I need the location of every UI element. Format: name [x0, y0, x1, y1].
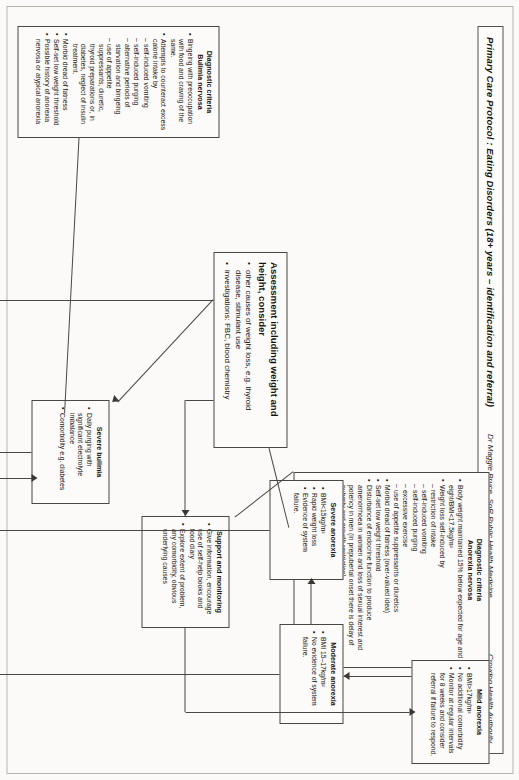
list-item: self-induced purging [409, 479, 418, 661]
assessment-heading: Assessment including weight and height, … [255, 262, 279, 438]
connector-specialist-to-severe-bulimia [0, 478, 31, 479]
connector-severe-bulimia-to-specialist [0, 452, 31, 453]
bulimia-criteria-box: Diagnostic criteria Bulimia nervosa Bing… [17, 26, 219, 138]
severe-anorexia-heading: Severe anorexia [328, 487, 337, 573]
list-item: Explore extent of problem, any comorbidi… [159, 523, 185, 621]
connector-support-right-to-mild-h [184, 628, 185, 712]
list-item: alternative periods of starvation and bi… [113, 33, 130, 131]
list-item: excessive exercise [400, 479, 409, 661]
anorexia-criteria-heading-line2: Anorexia nervosa [465, 540, 474, 600]
list-item: Morbid dread of fatness [60, 33, 69, 131]
severe-bulimia-list: Daily purging with significant electroly… [57, 407, 92, 497]
list-item: Self-set low weight threshold [372, 479, 381, 661]
assessment-list: other causes of weight loss, e.g. thyroi… [220, 262, 252, 438]
severe-bulimia-heading: Severe bulimia [94, 407, 103, 497]
list-item: No evidence of system failure. [299, 631, 316, 717]
connector-mild-to-moderate-anorexia [343, 676, 411, 677]
list-item: investigations: FBC, blood chemistry [220, 262, 230, 438]
list-item: Bingeing with preoccupation with food an… [167, 33, 193, 131]
connector-assessment-to-support-right [185, 400, 213, 401]
connector-moderate-to-severe-anorexia [310, 584, 311, 624]
arrow-head [409, 708, 415, 716]
list-item: Rapid weight loss [308, 487, 317, 573]
severe-anorexia-list: BMI<15kg/m² Rapid weight loss Evidence o… [290, 487, 326, 573]
list-item: Give information, encourage use of self-… [186, 523, 212, 621]
list-item: BMI>17kg/m² [463, 667, 472, 757]
severe-bulimia-box: Severe bulimia Daily purging with signif… [31, 400, 109, 504]
list-item: Daily purging with significant electroly… [66, 407, 92, 497]
mild-anorexia-list: BMI>17kg/m² No additional comorbidity Mo… [428, 667, 472, 757]
mild-anorexia-box: Mild anorexia BMI>17kg/m² No additional … [411, 660, 489, 764]
list-item: Morbid dread of fatness (over-valued ide… [381, 479, 390, 661]
list-item: Evidence of system failure. [290, 487, 307, 573]
connector-severe-anorexia-to-specialist-v [0, 530, 269, 531]
arrow-head [31, 474, 37, 482]
arrow-head [181, 510, 189, 516]
list-item: self-induced purging [131, 33, 140, 131]
list-item: self-induced vomiting [140, 33, 149, 131]
anorexia-criteria-heading-line1: Diagnostic criteria [474, 539, 483, 602]
moderate-anorexia-list: BMI 15–17kg/m² No evidence of system fai… [299, 631, 326, 717]
list-item: Self-set low weight threshold [51, 33, 60, 131]
anorexia-criteria-heading: Diagnostic criteria Anorexia nervosa [465, 479, 483, 661]
moderate-anorexia-box: Moderate anorexia BMI 15–17kg/m² No evid… [279, 624, 343, 724]
bulimia-criteria-heading-line1: Diagnostic criteria [204, 51, 213, 114]
connector-assessment-to-support-left [0, 300, 213, 301]
protocol-flowchart: Primary Care Protocol : Eating Disorders… [0, 0, 519, 780]
support-monitoring-list: Give information, encourage use of self-… [159, 523, 212, 621]
list-item: Body weight maintained 15% below expecte… [446, 479, 463, 661]
moderate-anorexia-heading: Moderate anorexia [328, 631, 337, 717]
list-item: Attempts to counteract excess calorie in… [149, 33, 166, 131]
list-item: Comorbidity e.g. diabetes [57, 407, 66, 497]
anorexia-criteria-list: Body weight maintained 15% below expecte… [337, 479, 463, 661]
arrow-head [307, 578, 315, 584]
list-item: BMI<15kg/m² [317, 487, 326, 573]
list-item: Possible history of anorexia nervosa or … [33, 33, 50, 131]
bulimia-criteria-list: Bingeing with preoccupation with food an… [33, 33, 193, 131]
list-item: use of appetite suppressants, diuretic, … [69, 33, 112, 131]
connector-moderate-anorexia-to-specialist-v [0, 674, 279, 675]
list-item: other causes of weight loss, e.g. thyroi… [231, 262, 252, 438]
screenshot-page: Primary Care Protocol : Eating Disorders… [0, 0, 519, 780]
list-item: No additional comorbidity [454, 667, 463, 757]
assessment-box: Assessment including weight and height, … [213, 252, 287, 448]
list-item: Monitor at regular intervals for 8 weeks… [428, 667, 454, 757]
bulimia-criteria-heading: Diagnostic criteria Bulimia nervosa [195, 33, 213, 131]
list-item: self-induced vomiting [418, 479, 427, 661]
arrow-head [343, 672, 349, 680]
list-item: restriction of intake [427, 479, 436, 661]
bulimia-criteria-heading-line2: Bulimia nervosa [195, 54, 204, 110]
mild-anorexia-heading: Mild anorexia [474, 667, 483, 757]
list-item: Weight loss self-induced by [436, 479, 445, 661]
support-monitoring-heading: Support and monitoring [214, 523, 223, 621]
list-item: BMI 15–17kg/m² [317, 631, 326, 717]
page-title: Primary Care Protocol : Eating Disorders… [485, 37, 496, 407]
connector-assessment-to-support-right-h [184, 400, 185, 516]
list-item: use of appetite suppressants or diuretic… [391, 479, 400, 661]
support-monitoring-anorexia-box: Support and monitoring Give information,… [141, 516, 229, 628]
connector-support-right-to-mild-v [185, 712, 409, 713]
